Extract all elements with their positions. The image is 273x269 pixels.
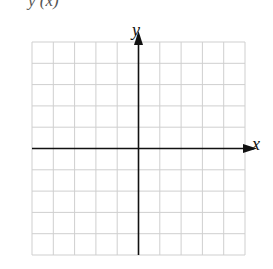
y-axis-label: y: [132, 20, 140, 41]
x-axis-label: x: [252, 134, 260, 155]
